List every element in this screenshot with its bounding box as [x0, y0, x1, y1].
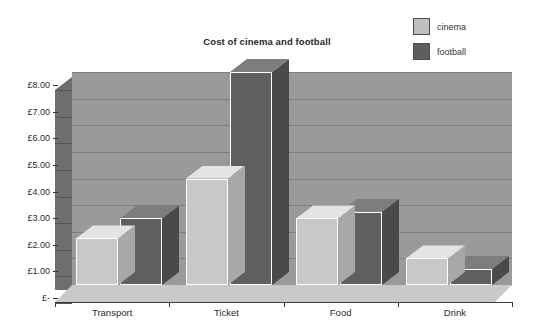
x-axis-label-ticket: Ticket: [214, 307, 239, 318]
y-axis-tick: [53, 218, 58, 219]
bar-transport-cinema[interactable]: [76, 238, 118, 285]
y-axis-tick: [53, 298, 58, 299]
plot-area: [72, 72, 512, 285]
bar-side-face: [162, 205, 179, 285]
bar-front-face: [76, 238, 118, 285]
legend-label-cinema: cinema: [437, 22, 466, 32]
bar-side-face: [228, 166, 245, 286]
bar-ticket-cinema[interactable]: [186, 179, 228, 286]
x-axis-label-food: Food: [330, 307, 352, 318]
x-axis-label-transport: Transport: [92, 307, 132, 318]
bar-front-face: [186, 179, 228, 286]
legend-swatch-cinema: [413, 18, 430, 35]
legend-label-football: football: [437, 47, 466, 57]
y-axis-tick: [53, 245, 58, 246]
plot-floor: [55, 285, 512, 302]
bar-front-face: [296, 218, 338, 285]
y-axis-tick: [53, 165, 58, 166]
legend-item-football[interactable]: football: [413, 41, 531, 62]
y-axis: £-£1.00£2.00£3.00£4.00£5.00£6.00£7.00£8.…: [0, 72, 58, 285]
y-axis-tick: [53, 112, 58, 113]
y-axis-label: £1.00: [27, 266, 50, 276]
y-axis-tick: [53, 271, 58, 272]
y-axis-label: £6.00: [27, 133, 50, 143]
gridline: [72, 125, 512, 126]
y-axis-label: £2.00: [27, 240, 50, 250]
bar-drink-cinema[interactable]: [406, 258, 448, 285]
y-axis-label: £-: [42, 293, 50, 303]
legend-item-cinema[interactable]: cinema: [413, 16, 531, 37]
x-axis-tick: [512, 302, 513, 307]
chart-legend: cinema football: [413, 16, 531, 66]
y-axis-tick: [53, 138, 58, 139]
gridline: [72, 72, 512, 73]
y-axis-label: £4.00: [27, 187, 50, 197]
chart-canvas: Cost of cinema and football cinema footb…: [0, 0, 534, 329]
bar-side-face: [272, 59, 289, 285]
bar-side-face: [382, 199, 399, 285]
y-axis-label: £8.00: [27, 80, 50, 90]
gridline: [72, 99, 512, 100]
x-axis-label-drink: Drink: [444, 307, 466, 318]
y-axis-label: £3.00: [27, 213, 50, 223]
y-axis-label: £7.00: [27, 107, 50, 117]
legend-swatch-football: [413, 43, 430, 60]
bar-food-cinema[interactable]: [296, 218, 338, 285]
y-axis-tick: [53, 192, 58, 193]
y-axis-tick: [53, 85, 58, 86]
bar-side-face: [338, 205, 355, 285]
x-axis-labels: TransportTicketFoodDrink: [55, 307, 512, 327]
gridline: [72, 179, 512, 180]
side-wall-tick: [55, 303, 72, 304]
bar-front-face: [406, 258, 448, 285]
y-axis-label: £5.00: [27, 160, 50, 170]
gridline: [72, 152, 512, 153]
